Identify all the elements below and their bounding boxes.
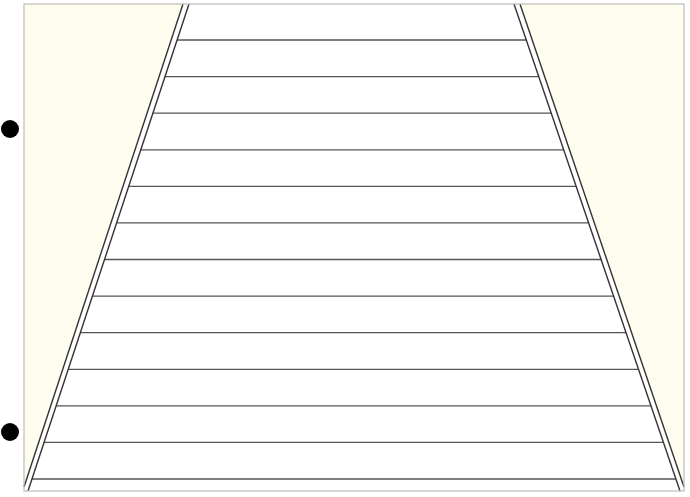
bullet-marker <box>1 120 19 138</box>
bullet-marker <box>1 423 19 441</box>
ladder-diagram <box>0 0 690 497</box>
